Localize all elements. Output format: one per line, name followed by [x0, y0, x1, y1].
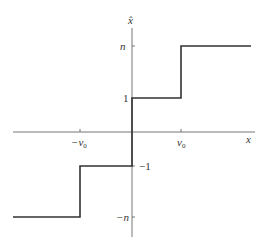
step-function-diagram: x̂ x −v0 v0 n 1 −1 −n: [0, 0, 265, 247]
tick-label-1: 1: [123, 92, 129, 104]
tick-label-n: n: [120, 40, 126, 52]
tick-label-v0: v0: [177, 136, 186, 150]
tick-label-neg-n: −n: [116, 211, 129, 223]
y-axis-label: x̂: [127, 14, 133, 26]
diagram-svg: x̂ x −v0 v0 n 1 −1 −n: [0, 0, 265, 247]
tick-label-neg-v0: −v0: [71, 136, 87, 150]
tick-label-neg-1: −1: [139, 160, 151, 172]
x-axis-label: x: [245, 133, 251, 145]
